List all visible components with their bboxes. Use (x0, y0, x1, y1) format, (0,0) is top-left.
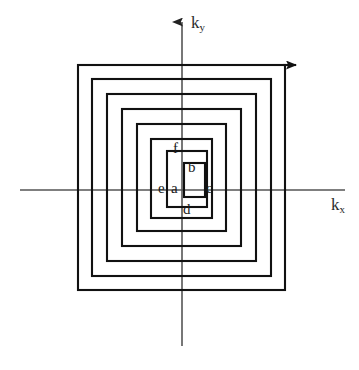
y-axis-label: ky (191, 14, 205, 31)
y-axis-label-subscript: y (200, 21, 206, 33)
zone-label-b: b (188, 160, 196, 175)
inner-box-outer (167, 151, 207, 207)
brillouin-zone-diagram: kx ky abcdef (0, 0, 359, 370)
x-axis-label: kx (331, 196, 345, 213)
diagram-canvas (0, 0, 359, 370)
y-axis-label-base: k (191, 13, 200, 32)
zone-label-d: d (183, 202, 191, 217)
zone-label-f: f (173, 141, 178, 156)
axis-lines (20, 22, 345, 346)
inner-box-group (167, 151, 207, 207)
zone-label-c: c (206, 181, 213, 196)
x-axis-label-base: k (331, 195, 340, 214)
zone-label-a: a (171, 181, 178, 196)
x-axis-label-subscript: x (340, 203, 346, 215)
zone-label-e: e (158, 181, 165, 196)
